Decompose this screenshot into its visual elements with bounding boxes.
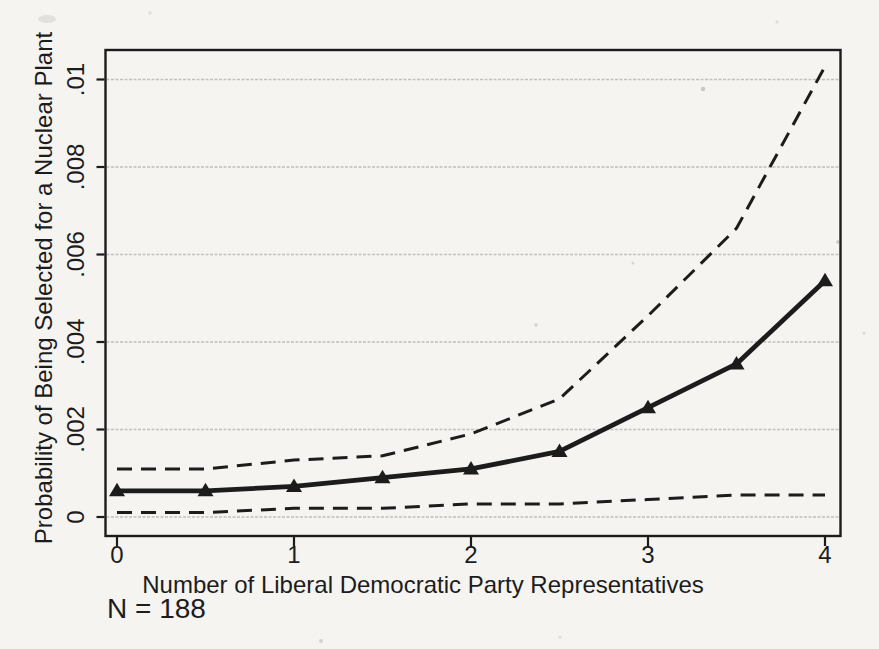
plot-border xyxy=(106,50,841,536)
y-tick-label: 0 xyxy=(62,510,89,523)
scan-speck xyxy=(148,11,152,15)
scan-speck xyxy=(319,639,323,643)
x-tick-label: 0 xyxy=(110,541,123,568)
scan-speck xyxy=(701,87,705,91)
probability-chart: 012340.002.004.006.008.01Number of Liber… xyxy=(0,0,879,649)
scanned-figure-page: 012340.002.004.006.008.01Number of Liber… xyxy=(0,0,879,649)
triangle-marker xyxy=(817,273,833,287)
x-tick-label: 3 xyxy=(641,541,654,568)
scan-speck xyxy=(38,15,56,23)
scan-speck xyxy=(863,332,866,335)
y-tick-label: .004 xyxy=(62,319,89,366)
x-tick-label: 4 xyxy=(818,541,831,568)
x-tick-label: 2 xyxy=(464,541,477,568)
x-tick-label: 1 xyxy=(287,541,300,568)
lower-ci-line xyxy=(117,495,825,512)
scan-speck xyxy=(632,262,635,265)
scan-speck xyxy=(776,21,779,24)
y-tick-label: .008 xyxy=(62,144,89,191)
scan-speck xyxy=(558,635,561,638)
y-axis-title: Probability of Being Selected for a Nucl… xyxy=(30,32,57,545)
sample-size-note: N = 188 xyxy=(107,593,206,624)
y-tick-label: .002 xyxy=(62,406,89,453)
upper-ci-line xyxy=(117,66,825,469)
y-tick-label: .006 xyxy=(62,231,89,278)
y-tick-label: .01 xyxy=(62,63,89,96)
scan-speck xyxy=(836,240,840,244)
predicted-line xyxy=(117,281,825,491)
scan-speck xyxy=(534,323,538,327)
x-axis-title: Number of Liberal Democratic Party Repre… xyxy=(142,571,704,598)
